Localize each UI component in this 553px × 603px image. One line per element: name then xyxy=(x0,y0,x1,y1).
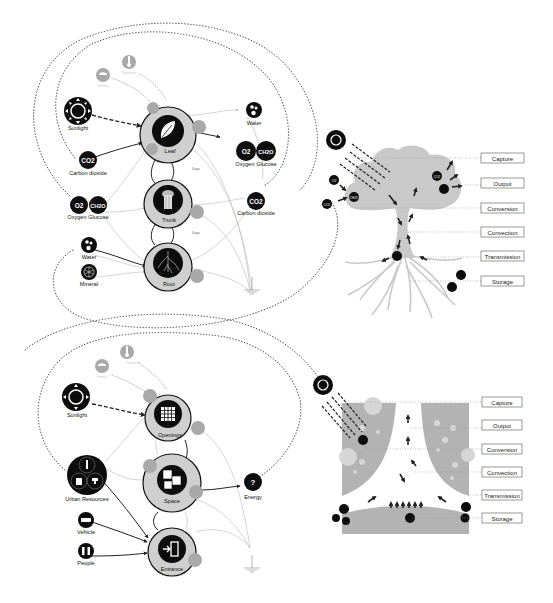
sensor-satellite xyxy=(143,389,157,403)
building-people-node xyxy=(461,502,471,512)
svg-text:Temperature: Temperature xyxy=(122,71,137,75)
svg-text:Energy: Energy xyxy=(244,494,262,500)
root-core-node[interactable]: Root xyxy=(144,243,204,291)
svg-text:CO2: CO2 xyxy=(324,203,331,207)
svg-text:O2: O2 xyxy=(332,179,337,183)
building-sun-node xyxy=(313,375,333,395)
svg-text:Convection: Convection xyxy=(487,470,517,476)
tree-co2-out-node: CO2 xyxy=(432,171,442,181)
building-storage-node xyxy=(405,513,415,523)
svg-text:Urban Resources: Urban Resources xyxy=(65,496,109,502)
urban-temperature-node[interactable]: Temperature xyxy=(120,345,141,365)
tree-ch2o-node: CH2O xyxy=(349,192,359,202)
sensor-satellite xyxy=(147,102,159,114)
leaf-core-node[interactable]: Leaf xyxy=(140,102,206,163)
tree-water-root-node xyxy=(447,282,457,292)
svg-text:Vehicle: Vehicle xyxy=(77,529,95,535)
tree-co2-node: CO2 xyxy=(322,199,332,209)
sensor-satellite xyxy=(190,205,204,219)
thermometer-icon xyxy=(128,56,130,64)
water-output-node[interactable]: Water xyxy=(246,102,262,126)
svg-text:CO2: CO2 xyxy=(434,175,441,179)
svg-text:Mineral: Mineral xyxy=(80,281,98,287)
svg-text:Openings: Openings xyxy=(158,432,182,438)
building-resource-node xyxy=(342,517,350,525)
urban-humidity-node[interactable]: Humidity xyxy=(95,359,109,379)
building-right-mass xyxy=(421,403,469,496)
svg-text:Humidity: Humidity xyxy=(97,375,108,379)
svg-text:CH2O: CH2O xyxy=(90,203,106,209)
bus-icon xyxy=(81,518,91,522)
svg-text:Oxygen Glucose: Oxygen Glucose xyxy=(235,161,276,167)
tree-sun-node xyxy=(326,130,346,150)
svg-text:Output: Output xyxy=(493,423,511,429)
tree-mineral-node xyxy=(456,270,466,280)
water-input-node[interactable]: Water xyxy=(81,237,97,260)
svg-text:Carbon dioxide: Carbon dioxide xyxy=(69,170,107,176)
svg-text:Entrance: Entrance xyxy=(161,566,183,572)
trunk-core-node[interactable]: Trunk xyxy=(144,180,204,228)
svg-text:Oxygen Glucose: Oxygen Glucose xyxy=(67,214,108,220)
entrance-core-node[interactable]: Entrance xyxy=(148,528,202,576)
sensor-satellite xyxy=(188,553,202,567)
vehicle-node[interactable]: Vehicle xyxy=(77,512,95,535)
svg-text:Carbon dioxide: Carbon dioxide xyxy=(237,210,275,216)
energy-output-node[interactable]: ? Energy xyxy=(244,473,262,500)
svg-text:Leaf: Leaf xyxy=(165,148,176,154)
tree-canopy xyxy=(345,145,461,210)
urban-system-network: Temperature Humidity Sunlight U xyxy=(38,333,301,576)
svg-text:Water: Water xyxy=(247,120,262,126)
people-node[interactable]: People xyxy=(77,543,94,566)
svg-text:?: ? xyxy=(251,478,256,487)
svg-text:Transmission: Transmission xyxy=(484,493,519,499)
svg-text:Capture: Capture xyxy=(491,400,513,406)
sensor-satellite xyxy=(189,485,203,499)
oxygen-glucose-input-node[interactable]: O2 CH2O Oxygen Glucose xyxy=(67,196,108,220)
urban-resources-node[interactable]: Urban Resources xyxy=(65,455,109,502)
svg-text:People: People xyxy=(77,560,94,566)
thermometer-icon xyxy=(126,346,128,354)
svg-text:Temperature: Temperature xyxy=(126,361,141,365)
tree-roots xyxy=(345,255,462,318)
co2-output-node[interactable]: CO2 Carbon dioxide xyxy=(237,192,275,216)
svg-text:Convection: Convection xyxy=(487,230,517,236)
svg-text:Water: Water xyxy=(82,254,97,260)
sensor-satellite xyxy=(146,143,158,155)
humidity-node[interactable]: Humidity xyxy=(96,68,110,88)
space-core-node[interactable]: Space xyxy=(143,454,203,512)
svg-text:Storage: Storage xyxy=(491,516,513,522)
svg-text:O2: O2 xyxy=(75,202,84,209)
svg-text:Trunk: Trunk xyxy=(162,217,176,223)
svg-text:O2: O2 xyxy=(242,148,251,155)
sensor-satellite xyxy=(190,269,204,283)
sugar-flow-label: Sugar xyxy=(192,167,200,171)
urban-sunlight-flow xyxy=(92,404,145,415)
eco-urban-system-diagram: Sugar Sugar Temperature Humidity xyxy=(0,0,553,603)
sunlight-to-leaf-flow xyxy=(92,115,141,126)
building-pv-node xyxy=(358,435,368,445)
feedback-loop-cross xyxy=(25,314,320,380)
building-section-diagram: Capture Output Conversion Convection Tra… xyxy=(313,375,522,534)
ground-sink-icon xyxy=(244,555,260,572)
svg-text:Humidity: Humidity xyxy=(98,84,109,88)
oxygen-glucose-output-node[interactable]: O2 CH2O Oxygen Glucose xyxy=(235,141,276,167)
tree-water-out-node xyxy=(439,184,449,194)
sugar-flow-label: Sugar xyxy=(192,231,200,235)
sunlight-node[interactable]: Sunlight xyxy=(64,97,92,131)
building-resource-node xyxy=(332,514,340,522)
svg-text:Transmission: Transmission xyxy=(485,254,520,260)
tree-stage-labels: Capture Output Conversion Convection Tra… xyxy=(481,153,524,286)
tree-trunk xyxy=(390,207,415,258)
svg-text:Output: Output xyxy=(493,181,511,187)
tree-ch2o-root-node xyxy=(392,251,402,261)
temperature-node[interactable]: Temperature xyxy=(122,55,137,75)
natural-system-network: Sugar Sugar Temperature Humidity xyxy=(25,23,338,380)
svg-text:Capture: Capture xyxy=(492,156,514,162)
tree-section-diagram: O2 CO2 CH2O CO2 xyxy=(322,130,524,318)
urban-sunlight-node[interactable]: Sunlight xyxy=(62,383,90,418)
svg-text:Space: Space xyxy=(164,498,180,504)
mineral-input-node[interactable]: Mineral xyxy=(80,264,98,287)
svg-text:Sunlight: Sunlight xyxy=(67,412,88,418)
svg-text:CO2: CO2 xyxy=(81,157,95,164)
openings-core-node[interactable]: Openings xyxy=(143,389,205,441)
